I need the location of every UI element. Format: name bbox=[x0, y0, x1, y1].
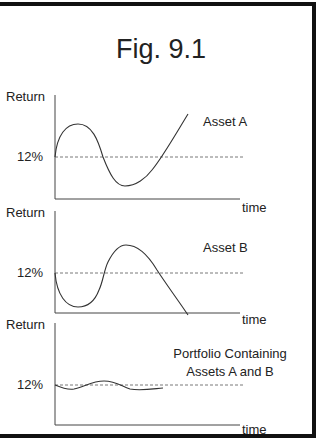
asset-b-curve bbox=[55, 245, 188, 315]
plots-canvas bbox=[0, 0, 322, 445]
portfolio-curve bbox=[55, 381, 163, 390]
asset-a-curve bbox=[55, 114, 188, 186]
panel-3-axes bbox=[55, 323, 240, 425]
panel-2-axes bbox=[55, 211, 240, 313]
panel-1-axes bbox=[55, 95, 240, 199]
